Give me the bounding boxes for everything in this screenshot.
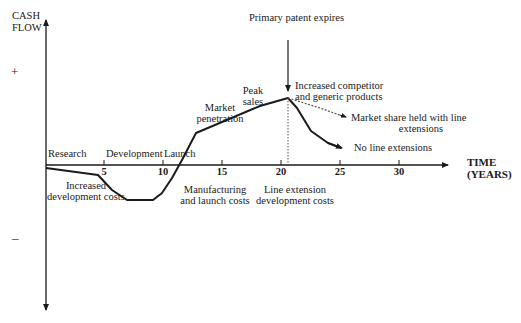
minus-sign: – xyxy=(12,232,19,244)
line-extensions-line2: extensions xyxy=(351,123,491,135)
patent-expires-label: Primary patent expires xyxy=(249,12,344,24)
line-ext-costs-line2: development costs xyxy=(250,195,340,207)
x-axis-label-line1: TIME xyxy=(467,156,496,168)
y-axis-label-line1: CASH xyxy=(12,10,40,22)
phase-research: Research xyxy=(48,148,86,160)
tick-30: 30 xyxy=(391,166,407,178)
phase-development: Development xyxy=(106,148,163,160)
x-axis xyxy=(46,160,448,165)
tick-20: 20 xyxy=(273,166,289,178)
market-penetration-line2: penetration xyxy=(190,113,250,125)
tick-10: 10 xyxy=(155,166,171,178)
plus-sign: + xyxy=(11,66,18,78)
tick-5: 5 xyxy=(96,166,112,178)
x-axis-label-line2: (YEARS) xyxy=(467,168,512,180)
dev-costs-line2: development costs xyxy=(47,191,125,203)
phase-launch: Launch xyxy=(164,148,196,160)
no-line-extensions-label: No line extensions xyxy=(354,142,432,154)
y-axis-label-line2: FLOW xyxy=(12,22,42,34)
tick-15: 15 xyxy=(214,166,230,178)
diagram-canvas xyxy=(0,0,521,323)
increased-competitor-line2: and generic products xyxy=(295,91,382,103)
tick-25: 25 xyxy=(332,166,348,178)
mfg-launch-line2: and launch costs xyxy=(170,195,260,207)
